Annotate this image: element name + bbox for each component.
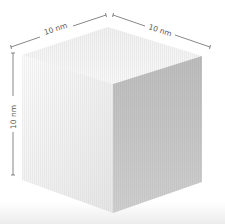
- dimension-label-top-right: 10 nm: [147, 22, 173, 38]
- cube-diagram: 10 nm 10 nm 10 nm: [0, 0, 225, 224]
- dimension-label-left-height: 10 nm: [9, 105, 18, 129]
- cube: [22, 27, 202, 213]
- dimension-label-top-left: 10 nm: [43, 21, 69, 37]
